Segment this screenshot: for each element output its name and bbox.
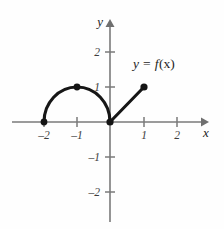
x-tick-label-neg2: –2 [37,129,50,141]
x-tick-label-neg1: –1 [70,129,83,141]
function-label-y: y [131,56,139,71]
point-marker-origin [106,118,113,125]
semicircle-arc-path [44,87,110,122]
function-label-arg: (x) [159,56,175,71]
figure-container: –2 –1 1 2 2 1 –1 –2 y x y=f(x) [0,0,224,229]
function-label-equals: = [143,56,151,71]
y-tick-label-neg1: –1 [88,151,101,163]
x-tick-label-2: 2 [174,129,180,141]
graph-canvas: –2 –1 1 2 2 1 –1 –2 y x y=f(x) [0,0,224,229]
function-label: y=f(x) [131,56,175,71]
y-axis-label: y [95,14,103,29]
point-marker-1-1 [140,83,147,90]
point-marker-neg1-1 [74,84,81,91]
y-axis-arrowhead [106,19,115,27]
line-segment-path [110,87,144,122]
x-axis-label: x [202,125,209,140]
point-marker-neg2-0 [41,119,48,126]
y-tick-label-2: 2 [94,46,100,58]
y-tick-label-neg2: –2 [88,186,101,198]
x-tick-label-1: 1 [141,129,147,141]
